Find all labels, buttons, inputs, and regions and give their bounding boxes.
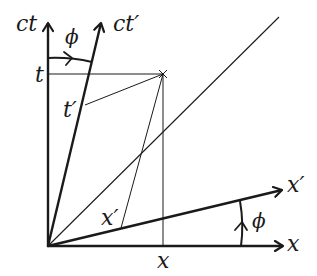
- x-prime-axis-label: x′: [287, 174, 304, 196]
- phi-bottom-label: ϕ: [252, 211, 266, 231]
- x-prime-axis: [48, 190, 282, 246]
- ct-prime-axis-label: ct′: [113, 13, 139, 35]
- t-prime-projection-line: [85, 74, 163, 105]
- x-prime-projection-label: x′: [101, 207, 118, 229]
- x-prime-projection-line: [121, 74, 163, 228]
- t-label: t: [35, 64, 44, 86]
- phi-arrow-bottom-icon: [235, 222, 247, 230]
- spacetime-diagram: [0, 0, 317, 276]
- x-axis-label: x: [287, 233, 299, 255]
- phi-top-label: ϕ: [65, 27, 79, 47]
- ct-prime-axis: [48, 23, 101, 246]
- x-projection-label: x: [157, 250, 169, 272]
- t-prime-label: t′: [63, 99, 77, 121]
- ct-axis-label: ct: [16, 13, 37, 35]
